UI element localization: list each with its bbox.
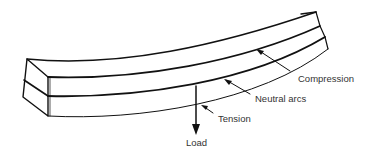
neutral-arrowhead-icon (224, 79, 232, 85)
top-front-edge (48, 26, 320, 77)
compression-arrowhead-icon (256, 49, 264, 55)
right-end-face (316, 12, 328, 49)
left-end-divider (24, 80, 48, 96)
compression-pointer (258, 50, 290, 71)
load-arrowhead-icon (192, 124, 200, 135)
top-back-edge (27, 12, 316, 61)
tension-label: Tension (218, 113, 251, 124)
beam-bending-diagram: Compression Neutral arcs Tension Load (0, 0, 373, 162)
bottom-edge (48, 49, 328, 117)
compression-label: Compression (298, 73, 354, 84)
load-label: Load (186, 137, 207, 148)
neutral-arcs-label: Neutral arcs (255, 93, 306, 104)
